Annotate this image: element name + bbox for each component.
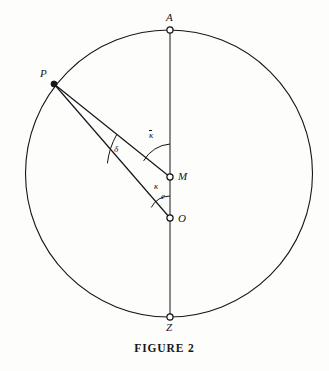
point-marker-a xyxy=(167,27,173,33)
point-label-a: A xyxy=(166,12,173,23)
point-label-m: M xyxy=(178,171,187,182)
kappa-bar-glyph: κ xyxy=(149,131,153,140)
figure-caption: FIGURE 2 xyxy=(0,342,329,354)
angle-label-kappa: κ xyxy=(154,182,158,191)
point-label-o: O xyxy=(178,213,186,224)
figure-drawing xyxy=(0,0,329,371)
point-marker-m xyxy=(167,174,173,180)
point-label-z: Z xyxy=(166,322,172,333)
point-label-p: P xyxy=(40,68,47,79)
figure-container: A P M O Z κ κ δ e FIGURE 2 xyxy=(0,0,329,371)
point-marker-o xyxy=(167,215,173,221)
angle-label-delta: δ xyxy=(114,145,118,154)
point-marker-z xyxy=(167,314,173,320)
angle-label-kappa-bar: κ xyxy=(149,131,153,140)
point-marker-p xyxy=(51,81,57,87)
distance-label-e: e xyxy=(161,192,165,201)
